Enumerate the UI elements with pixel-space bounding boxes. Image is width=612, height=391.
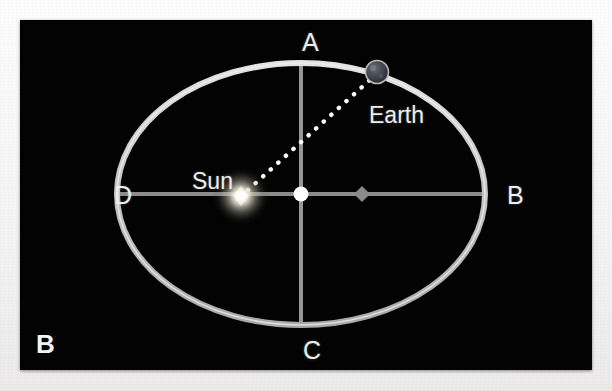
earth-label: Earth [369, 104, 424, 127]
earth-marker [366, 61, 389, 84]
sun-earth-sight-line [248, 78, 372, 190]
figure-root: A B C D Sun Earth B [0, 0, 612, 391]
vertex-label-d: D [114, 183, 132, 208]
vertex-label-b: B [507, 183, 524, 208]
empty-focus-marker [354, 186, 370, 202]
ellipse-center-marker [294, 187, 309, 202]
sun-label: Sun [192, 170, 233, 193]
orbit-diagram-stage: A B C D Sun Earth [20, 20, 592, 370]
vertex-label-c: C [303, 338, 321, 363]
diagram-panel: A B C D Sun Earth B [20, 20, 592, 370]
panel-letter-label: B [36, 329, 55, 360]
vertex-label-a: A [302, 30, 319, 55]
